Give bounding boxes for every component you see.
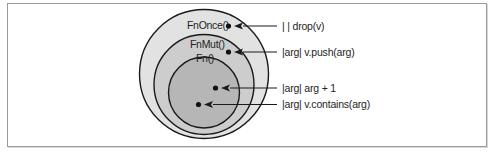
fn-circle: [169, 57, 240, 128]
fnmut-example-dot: [226, 49, 231, 54]
fn-example-dot-2: [196, 102, 201, 107]
fnonce-label: FnOnce(): [187, 19, 229, 31]
fn-label: Fn(): [196, 52, 214, 64]
example-label-contains: |arg| v.contains(arg): [282, 98, 370, 110]
closure-trait-diagram: FnOnce() FnMut() Fn() | | drop(v) |arg| …: [0, 0, 493, 153]
example-label-add-one: |arg| arg + 1: [282, 82, 336, 94]
fnmut-label: FnMut(): [190, 38, 225, 50]
fn-example-dot-1: [213, 85, 218, 90]
example-label-push: |arg| v.push(arg): [282, 46, 354, 58]
example-label-drop: | | drop(v): [282, 20, 324, 32]
arrow-drop: [234, 23, 277, 30]
fnonce-example-dot: [226, 23, 231, 28]
